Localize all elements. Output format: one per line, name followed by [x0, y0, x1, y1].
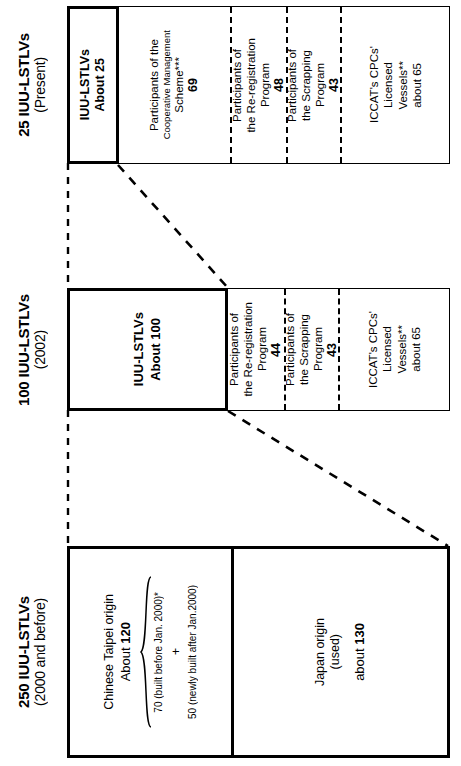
cell-line-1: ICCAT's CPCs' — [366, 311, 380, 388]
header-line2-present: (Present) — [32, 57, 48, 113]
cell-value: about 130 — [352, 623, 368, 681]
connector-diagonal-bottom — [228, 411, 448, 546]
curly-brace-icon — [140, 576, 153, 728]
cell-line-2: (used) — [328, 634, 344, 669]
cell-value: about 65 — [410, 63, 424, 108]
total-box-label-present: IUU-LSTLVs — [78, 49, 93, 120]
connector-diagonal-top — [118, 165, 228, 288]
cell-line-3: Program — [255, 327, 269, 371]
band-2000: Chinese Taipei origin About 120 70 (buil… — [67, 546, 450, 758]
cell-line-1: Participants of — [284, 313, 297, 386]
section-header-2002: 100 IUU-LSTLVs (2002) — [0, 288, 62, 411]
total-box-label-2002: IUU-LSTLVs — [131, 312, 147, 386]
cell-line-3: Program — [311, 327, 325, 371]
header-line1-2000: 250 IUU-LSTLVs — [15, 596, 32, 708]
cell-value: 43 — [327, 78, 340, 92]
cell-value-number: 130 — [352, 623, 367, 645]
cell-iccat-licensed-vessels: ICCAT's CPCs' Licensed Vessels** about 6… — [338, 289, 449, 410]
cell-re-registration-program: Participants of the Re-registration Prog… — [227, 289, 284, 410]
cell-line-3: Vessels** — [395, 325, 409, 374]
cell-value-prefix: About — [118, 644, 133, 682]
cell-scrapping-program: Participants of the Scrapping Program 43 — [284, 289, 338, 410]
brace-group: 70 (built before Jan. 2000)* + 50 (newly… — [140, 576, 199, 728]
total-box-value-2002: About 100 — [148, 318, 164, 381]
cell-japan-origin: Japan origin (used) about 130 — [231, 549, 447, 755]
total-box-2002: IUU-LSTLVs About 100 — [67, 288, 228, 411]
band-present: IUU-LSTLVs About 25 Participants of the … — [67, 6, 450, 164]
cell-line-2: the Re-registration — [241, 302, 255, 397]
cell-line-1: Japan origin — [313, 618, 329, 686]
cell-line-1: Participants of — [230, 49, 244, 122]
total-box-present: IUU-LSTLVs About 25 — [67, 6, 119, 164]
cell-line-2-small: Cooperative Management — [161, 30, 172, 139]
header-line1-2002: 100 IUU-LSTLVs — [15, 294, 32, 406]
cell-line-2: the Scrapping — [297, 314, 311, 385]
cell-value: About 120 — [118, 622, 134, 681]
band-2002: IUU-LSTLVs About 100 Participants of the… — [67, 288, 450, 411]
cell-value: about 65 — [409, 327, 423, 372]
cell-line-3: Scheme*** — [172, 57, 186, 113]
cell-line-1: Participants of — [286, 49, 299, 122]
section-header-present: 25 IUU-LSTLVs (Present) — [0, 6, 62, 164]
cell-iccat-licensed-vessels: ICCAT's CPCs' Licensed Vessels** about 6… — [340, 7, 449, 163]
header-line1-present: 25 IUU-LSTLVs — [15, 33, 32, 137]
cell-value: 43 — [325, 343, 338, 357]
cell-chinese-taipei-origin: Chinese Taipei origin About 120 70 (buil… — [70, 549, 231, 755]
cell-value-prefix: about — [352, 645, 367, 681]
cell-line-2: the Scrapping — [299, 50, 313, 121]
header-line2-2000: (2000 and before) — [32, 598, 48, 706]
cell-line-1: Chinese Taipei origin — [102, 594, 118, 710]
cell-line-3: Program — [313, 63, 327, 107]
cell-line-1: Participants of the — [147, 39, 161, 131]
cell-re-registration-program: Participants of the Re-registration Prog… — [230, 7, 286, 163]
cell-line-1: ICCAT's CPCs' — [367, 46, 381, 123]
section-header-2000: 250 IUU-LSTLVs (2000 and before) — [0, 546, 62, 758]
cell-line-1: Participants of — [227, 313, 241, 386]
cell-value-number: 120 — [118, 622, 133, 644]
cell-line-3: Program — [258, 63, 272, 107]
cell-scrapping-program: Participants of the Scrapping Program 43 — [286, 7, 340, 163]
brace-plus: + — [165, 648, 187, 655]
brace-item-1: 70 (built before Jan. 2000)* — [153, 592, 165, 713]
cell-cooperative-management-scheme: Participants of the Cooperative Manageme… — [118, 7, 230, 163]
cell-value: 69 — [186, 78, 201, 92]
cell-value: 44 — [269, 343, 284, 357]
cell-line-2: the Re-registration — [244, 38, 258, 133]
cell-line-2: Licensed — [380, 326, 394, 372]
header-line2-2002: (2002) — [32, 330, 48, 369]
cell-line-3: Vessels** — [396, 61, 410, 110]
cell-value: 48 — [272, 78, 286, 92]
cell-line-2: Licensed — [381, 62, 395, 108]
total-box-value-present: About 25 — [93, 58, 108, 111]
brace-item-2: 50 (newly built after Jan.2000) — [187, 585, 199, 719]
